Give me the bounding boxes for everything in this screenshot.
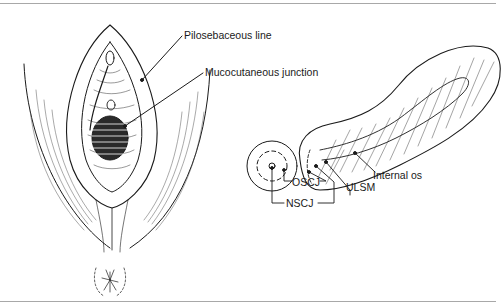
anus-drawing — [94, 268, 125, 296]
anatomy-illustration — [0, 0, 504, 306]
label-mucocutaneous-junction: Mucocutaneous junction — [205, 67, 318, 78]
label-ulsm: ULSM — [346, 182, 375, 193]
label-nscj: NSCJ — [286, 198, 313, 209]
label-oscj: OSCJ — [292, 177, 320, 188]
vulva-drawing — [24, 25, 210, 296]
label-internal-os: Internal os — [373, 170, 422, 181]
label-pilosebaceous-line: Pilosebaceous line — [184, 30, 272, 41]
